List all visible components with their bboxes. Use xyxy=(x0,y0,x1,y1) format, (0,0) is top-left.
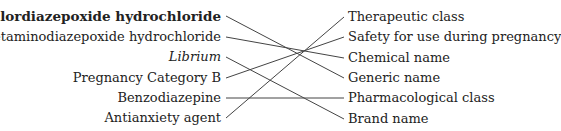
right-term-chemical-name: Chemical name xyxy=(348,50,450,66)
connector-metaminodiazepoxide-chemical xyxy=(226,37,344,58)
connector-librium-brand xyxy=(226,57,344,119)
right-term-therapeutic-class: Therapeutic class xyxy=(348,9,464,25)
right-term-generic-name: Generic name xyxy=(348,70,440,86)
right-term-pharmacological-class: Pharmacological class xyxy=(348,90,495,106)
right-term-brand-name: Brand name xyxy=(348,111,429,127)
connector-antianxiety-therapeutic xyxy=(226,17,344,118)
connector-pregnancy-safety xyxy=(226,37,344,78)
right-term-pregnancy-safety: Safety for use during pregnancy xyxy=(348,29,561,45)
